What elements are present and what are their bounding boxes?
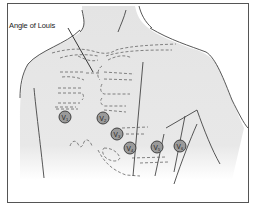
electrode-v5: V 5 bbox=[151, 141, 163, 153]
angle-of-louis-label: Angle of Louis bbox=[9, 21, 55, 30]
chest-diagram: V 1 V 2 V 3 V 4 V 5 V 6 bbox=[0, 0, 254, 208]
electrode-v2: V 2 bbox=[97, 112, 109, 124]
electrode-v1: V 1 bbox=[59, 111, 71, 123]
electrode-v6: V 6 bbox=[174, 140, 186, 152]
electrode-v4: V 4 bbox=[124, 142, 136, 154]
electrode-v3: V 3 bbox=[111, 128, 123, 140]
